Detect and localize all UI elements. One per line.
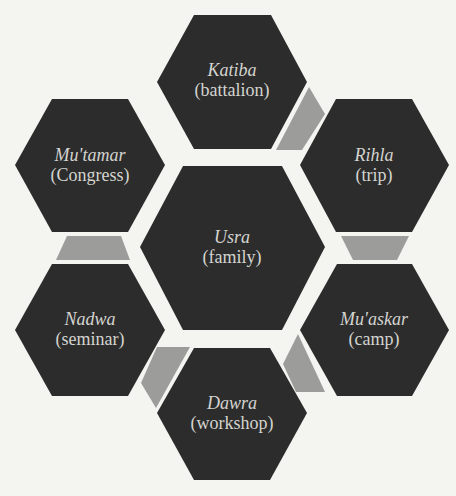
gloss-usra: (family) xyxy=(162,247,302,267)
term-dawra: Dawra xyxy=(162,393,302,413)
term-rihla: Rihla xyxy=(304,145,444,165)
label-nadwa: Nadwa (seminar) xyxy=(20,309,160,349)
label-dawra: Dawra (workshop) xyxy=(162,393,302,433)
term-mutamar: Mu'tamar xyxy=(20,145,160,165)
gloss-muaskar: (camp) xyxy=(304,329,444,349)
gloss-nadwa: (seminar) xyxy=(20,329,160,349)
term-usra: Usra xyxy=(162,227,302,247)
connector-rihla-muaskar xyxy=(341,236,409,260)
label-mutamar: Mu'tamar (Congress) xyxy=(20,145,160,185)
label-usra: Usra (family) xyxy=(162,227,302,267)
label-rihla: Rihla (trip) xyxy=(304,145,444,185)
gloss-mutamar: (Congress) xyxy=(20,165,160,185)
term-katiba: Katiba xyxy=(162,60,302,80)
gloss-dawra: (workshop) xyxy=(162,413,302,433)
gloss-rihla: (trip) xyxy=(304,165,444,185)
gloss-katiba: (battalion) xyxy=(162,80,302,100)
label-muaskar: Mu'askar (camp) xyxy=(304,309,444,349)
connector-nadwa-mutamar xyxy=(56,236,130,260)
term-nadwa: Nadwa xyxy=(20,309,160,329)
term-muaskar: Mu'askar xyxy=(304,309,444,329)
label-katiba: Katiba (battalion) xyxy=(162,60,302,100)
